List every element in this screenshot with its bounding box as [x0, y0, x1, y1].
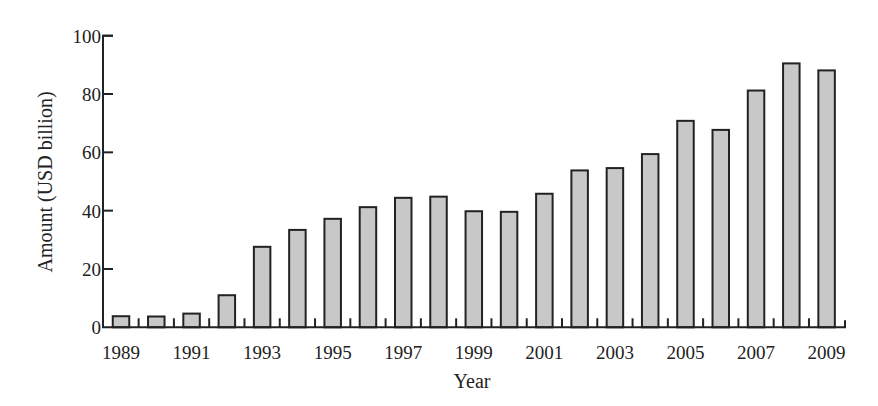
bar-1992 — [219, 295, 236, 327]
x-tick-label: 1999 — [455, 342, 493, 363]
bar-2007 — [748, 91, 765, 328]
bar-1991 — [183, 314, 200, 328]
y-tick-label: 60 — [82, 142, 101, 163]
x-axis-label: Year — [454, 370, 491, 392]
bar-2000 — [501, 212, 517, 327]
y-tick-label: 0 — [92, 317, 102, 338]
bar-2006 — [713, 130, 730, 327]
x-tick-label: 2007 — [737, 342, 775, 363]
bars — [113, 63, 835, 327]
bar-2008 — [783, 63, 800, 327]
bar-2005 — [677, 121, 694, 327]
bar-1993 — [254, 247, 271, 327]
bar-1996 — [360, 207, 377, 327]
bar-1994 — [289, 230, 306, 327]
y-tick-label: 80 — [82, 84, 101, 105]
y-tick-label: 20 — [82, 259, 101, 280]
x-tick-label: 2001 — [525, 342, 563, 363]
x-tick-label: 2009 — [808, 342, 846, 363]
y-axis-ticks: 020406080100 — [73, 26, 114, 339]
y-axis-label: Amount (USD billion) — [34, 91, 57, 272]
bar-1998 — [430, 197, 447, 328]
bar-chart: Amount (USD billion) Year 020406080100 1… — [0, 0, 878, 406]
x-tick-label: 2005 — [666, 342, 704, 363]
x-tick-label: 1993 — [243, 342, 281, 363]
x-tick-label: 1991 — [173, 342, 211, 363]
bar-2003 — [607, 168, 624, 327]
bar-1997 — [395, 198, 412, 327]
bar-1990 — [148, 317, 165, 328]
bar-2001 — [536, 194, 553, 328]
y-tick-label: 40 — [82, 201, 101, 222]
bar-2002 — [571, 170, 588, 327]
y-axis-title: Amount (USD billion) — [34, 91, 57, 272]
x-tick-label: 1995 — [314, 342, 352, 363]
x-tick-label: 1997 — [384, 342, 422, 363]
bar-2004 — [642, 154, 659, 327]
bar-2009 — [818, 70, 835, 327]
bar-1995 — [324, 219, 341, 327]
bar-1989 — [113, 316, 130, 327]
y-tick-label: 100 — [73, 26, 102, 47]
x-tick-label: 2003 — [596, 342, 634, 363]
bar-1999 — [466, 211, 483, 327]
x-tick-label: 1989 — [102, 342, 140, 363]
